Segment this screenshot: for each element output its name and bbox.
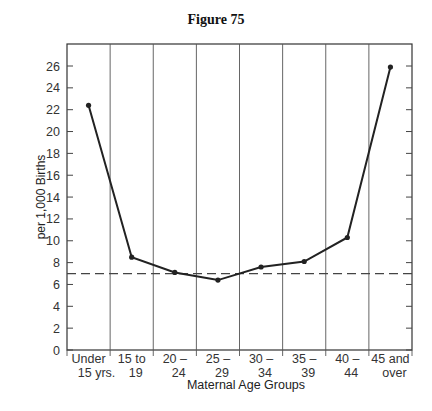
y-tick-label: 2 bbox=[53, 322, 60, 336]
data-point bbox=[345, 235, 350, 240]
y-axis-label: per 1,000 Births bbox=[34, 142, 48, 252]
y-tick-label: 4 bbox=[53, 300, 60, 314]
x-category-label: 15 to bbox=[118, 352, 146, 366]
data-point bbox=[129, 255, 134, 260]
data-point bbox=[302, 259, 307, 264]
x-category-label: 35 – bbox=[292, 352, 316, 366]
data-point bbox=[172, 270, 177, 275]
y-tick-label: 8 bbox=[53, 256, 60, 270]
data-point bbox=[215, 277, 220, 282]
y-tick-label: 12 bbox=[46, 212, 60, 226]
y-tick-label: 6 bbox=[53, 278, 60, 292]
y-tick-label: 16 bbox=[46, 169, 60, 183]
y-tick-label: 24 bbox=[46, 81, 60, 95]
x-category-label: 45 and bbox=[371, 352, 409, 366]
y-tick-label: 18 bbox=[46, 147, 60, 161]
y-tick-label: 14 bbox=[46, 191, 60, 205]
data-point bbox=[258, 264, 263, 269]
x-category-label: 25 – bbox=[206, 352, 230, 366]
data-point bbox=[388, 64, 393, 69]
x-axis-label: Maternal Age Groups bbox=[0, 378, 432, 392]
y-tick-label: 20 bbox=[46, 125, 60, 139]
y-tick-label: 0 bbox=[53, 344, 60, 358]
data-point bbox=[86, 103, 91, 108]
x-category-label: 30 – bbox=[249, 352, 273, 366]
line-chart: 02468101214161820222426Under15 yrs.15 to… bbox=[0, 0, 432, 411]
y-tick-label: 22 bbox=[46, 103, 60, 117]
y-tick-label: 10 bbox=[46, 234, 60, 248]
x-category-label: Under bbox=[72, 352, 106, 366]
x-category-label: 20 – bbox=[163, 352, 187, 366]
x-category-label: 40 – bbox=[335, 352, 359, 366]
y-tick-label: 26 bbox=[46, 60, 60, 74]
